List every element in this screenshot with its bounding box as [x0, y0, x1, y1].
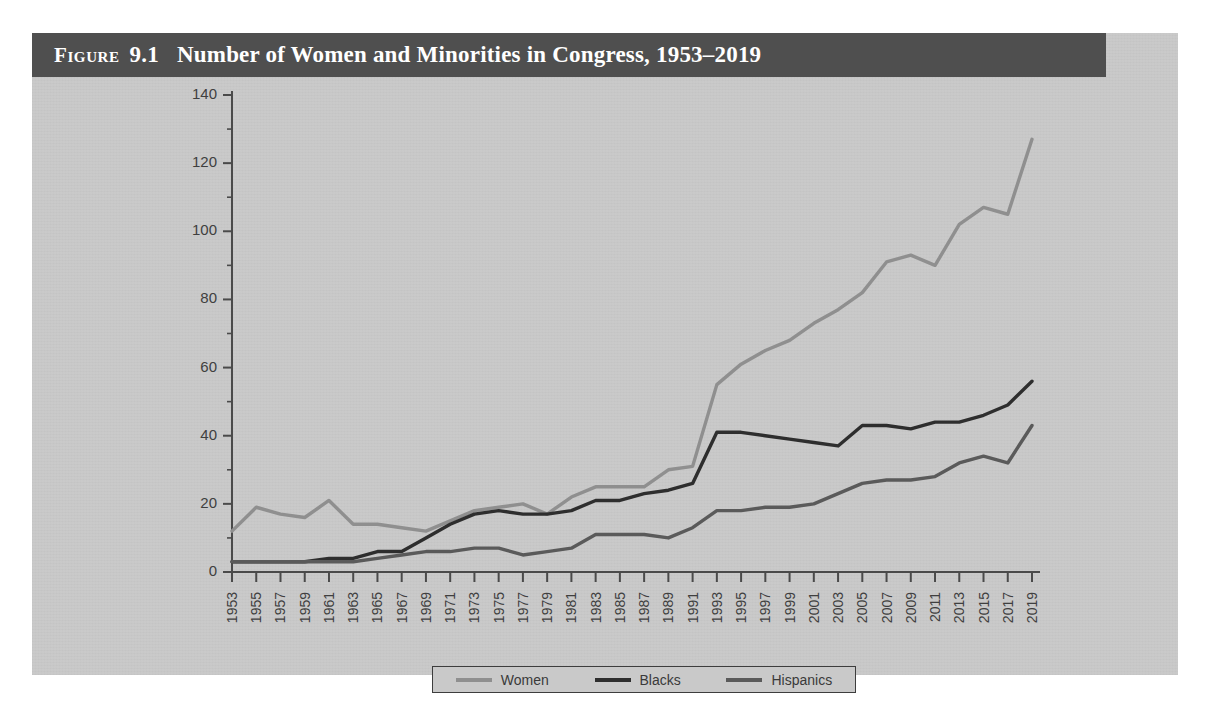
x-tick-label: 1983	[588, 592, 604, 623]
legend-item-women[interactable]: Women	[456, 672, 549, 688]
x-tick-label: 1999	[782, 592, 798, 623]
x-tick-label: 1979	[539, 592, 555, 623]
x-tick-label: 2005	[854, 592, 870, 623]
y-tick-label: 60	[200, 358, 217, 375]
x-tick-label: 1987	[636, 592, 652, 623]
legend-label-hispanics: Hispanics	[771, 672, 832, 688]
line-chart: 020406080100120140 195319551957195919611…	[32, 77, 1178, 675]
y-tick-label: 80	[200, 289, 217, 306]
x-tick-label: 1969	[418, 592, 434, 623]
x-tick-label: 2009	[903, 592, 919, 623]
x-tick-label: 1961	[321, 592, 337, 623]
x-tick-label: 2007	[879, 592, 895, 623]
x-tick-label: 1977	[515, 592, 531, 623]
x-tick-label: 2003	[830, 592, 846, 623]
legend-swatch-blacks	[595, 678, 631, 682]
figure-number: 9.1	[130, 42, 159, 67]
legend-item-blacks[interactable]: Blacks	[595, 672, 681, 688]
x-tick-label: 1953	[224, 592, 240, 623]
y-axis: 020406080100120140	[192, 85, 232, 579]
x-tick-label: 2011	[927, 592, 943, 622]
x-tick-label: 1955	[248, 592, 264, 623]
x-tick-label: 2001	[806, 592, 822, 623]
y-tick-label: 40	[200, 426, 217, 443]
y-tick-label: 140	[192, 85, 217, 102]
x-tick-label: 2013	[951, 592, 967, 623]
legend-label-blacks: Blacks	[640, 672, 681, 688]
y-tick-label: 100	[192, 221, 217, 238]
x-tick-label: 1973	[466, 592, 482, 623]
legend-item-hispanics[interactable]: Hispanics	[726, 672, 832, 688]
x-tick-label: 1959	[297, 592, 313, 623]
y-tick-label: 120	[192, 153, 217, 170]
chart-legend: Women Blacks Hispanics	[432, 666, 856, 693]
x-tick-label: 1995	[733, 592, 749, 623]
x-tick-label: 1997	[757, 592, 773, 623]
series-line-women	[232, 139, 1032, 531]
figure-container: Figure9.1Number of Women and Minorities …	[32, 33, 1178, 675]
legend-swatch-women	[456, 678, 492, 682]
chart-series-group	[232, 139, 1032, 561]
x-tick-label: 1993	[709, 592, 725, 623]
figure-title: Number of Women and Minorities in Congre…	[177, 42, 761, 67]
x-tick-label: 1963	[345, 592, 361, 623]
x-tick-label: 2017	[1000, 592, 1016, 623]
figure-header-band: Figure9.1Number of Women and Minorities …	[32, 33, 1106, 77]
x-tick-label: 1981	[563, 592, 579, 623]
x-tick-label: 1991	[685, 592, 701, 623]
y-tick-label: 0	[209, 562, 217, 579]
x-tick-label: 2015	[976, 592, 992, 623]
x-tick-label: 1975	[491, 592, 507, 623]
x-tick-label: 1989	[660, 592, 676, 623]
x-axis: 1953195519571959196119631965196719691971…	[224, 572, 1040, 623]
legend-label-women: Women	[501, 672, 549, 688]
y-tick-label: 20	[200, 494, 217, 511]
figure-label-word: Figure	[54, 43, 120, 67]
series-line-hispanics	[232, 425, 1032, 561]
x-tick-label: 2019	[1024, 592, 1040, 623]
figure-header-text: Figure9.1Number of Women and Minorities …	[54, 42, 761, 68]
x-tick-label: 1971	[442, 592, 458, 623]
legend-swatch-hispanics	[726, 678, 762, 682]
plot-area: 020406080100120140 195319551957195919611…	[32, 77, 1178, 675]
x-tick-label: 1967	[394, 592, 410, 623]
x-tick-label: 1985	[612, 592, 628, 623]
x-tick-label: 1957	[272, 592, 288, 623]
x-tick-label: 1965	[369, 592, 385, 623]
